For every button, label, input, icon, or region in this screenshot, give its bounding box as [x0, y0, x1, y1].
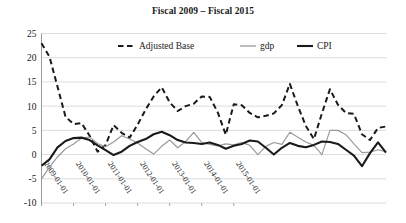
x-tick-label: 2012-01-01: [138, 160, 166, 196]
series-line-adjusted-base: [42, 43, 387, 151]
y-tick-label: 5: [32, 126, 37, 136]
x-tick-label: 2009-01-01: [42, 160, 70, 196]
y-tick-label: 0: [32, 150, 37, 160]
x-axis-ticks: [42, 203, 234, 206]
x-tick-label: 2015-01-01: [234, 160, 262, 196]
x-tick-label: 2011-01-01: [106, 160, 134, 196]
y-tick-label: -10: [24, 198, 37, 208]
y-tick-label: 25: [27, 29, 37, 39]
legend-label-adjusted-base: Adjusted Base: [139, 41, 194, 51]
x-tick-label: 2013-01-01: [170, 160, 198, 196]
chart-legend: Adjusted BasegdpCPI: [118, 41, 332, 51]
legend-label-cpi: CPI: [317, 41, 332, 51]
y-tick-label: 10: [27, 102, 37, 112]
y-tick-label: 20: [27, 53, 37, 63]
y-axis-tick-labels: 2520151050-5-10: [24, 29, 37, 209]
legend-label-gdp: gdp: [260, 41, 275, 51]
y-tick-label: -5: [29, 174, 37, 184]
y-tick-label: 15: [27, 77, 37, 87]
line-chart-plot: 2520151050-5-10 2009-01-012010-01-012011…: [0, 0, 406, 223]
series-line-cpi: [42, 132, 387, 166]
x-tick-label: 2010-01-01: [74, 160, 102, 196]
data-series-group: [42, 43, 387, 179]
chart-container: Fiscal 2009 – Fiscal 2015 2520151050-5-1…: [0, 0, 406, 223]
x-axis-tick-labels: 2009-01-012010-01-012011-01-012012-01-01…: [42, 160, 263, 196]
x-tick-label: 2014-01-01: [202, 160, 230, 196]
